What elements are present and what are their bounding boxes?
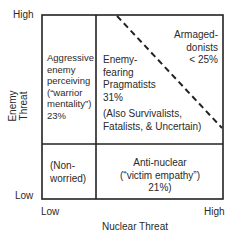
quadrant-aggressive: Aggressive enemy perceiving (“warrior me… [47, 52, 94, 121]
quadrant-note-survivalists: (Also Survivalists, Fatalists, & Uncerta… [103, 108, 201, 133]
quadrant-enemy-fearing-pragmatists: Enemy- fearing Pragmatists 31% [103, 54, 156, 104]
x-axis-low-label: Low [41, 206, 59, 217]
x-axis-title: Nuclear Threat [90, 221, 180, 232]
x-axis-high-label: High [204, 206, 225, 217]
quadrant-anti-nuclear: Anti-nuclear (“victim empathy”) 21%) [100, 157, 220, 195]
y-axis-low-label: Low [15, 190, 33, 201]
quadrant-armagedonists: Armaged- donists < 25% [174, 29, 218, 67]
quadrant-non-worried: (Non- worried) [50, 160, 86, 185]
y-axis-title: Enemy Threat [7, 76, 29, 136]
y-axis-high-label: High [13, 9, 34, 20]
